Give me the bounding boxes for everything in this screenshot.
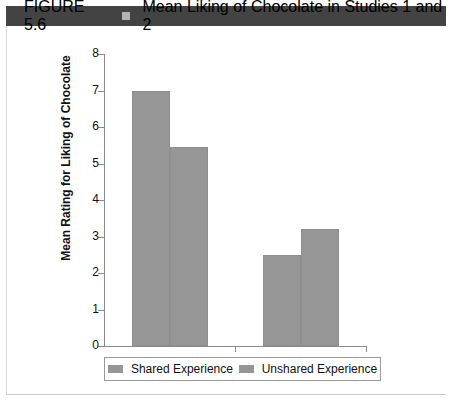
legend-item: Shared Experience [108,362,233,376]
figure-header: FIGURE 5.6 Mean Liking of Chocolate in S… [6,6,446,26]
legend-item: Unshared Experience [239,362,377,376]
bar-chart: Mean Rating for Liking of Chocolate 0123… [0,26,452,394]
square-glyph-icon [122,12,130,20]
legend-label: Unshared Experience [262,362,377,376]
bar [132,91,170,347]
caption-text [10,404,310,413]
y-axis-tick-label: 3 [92,229,99,243]
y-axis-tick-label: 1 [92,302,99,316]
y-axis-tick-label: 6 [92,119,99,133]
legend-label: Shared Experience [131,362,233,376]
y-axis-tick-label: 5 [92,156,99,170]
legend-swatch-icon [239,365,254,373]
y-axis-tick-label: 8 [92,46,99,60]
x-axis-tick [235,346,236,352]
y-axis-tick-label: 7 [92,83,99,97]
y-axis-line [104,54,105,346]
y-axis-tick-label: 0 [92,338,99,352]
chart-legend: Shared ExperienceUnshared Experience [104,357,381,381]
x-axis-tick [366,346,367,352]
plot-area: 012345678 Study 1Study 2 [104,54,366,346]
bar [301,229,339,346]
y-axis-tick-label: 4 [92,192,99,206]
y-axis-title: Mean Rating for Liking of Chocolate [59,33,73,283]
legend-swatch-icon [108,365,123,373]
panel-bottom-rule [6,394,446,395]
bar [170,147,208,346]
bar [263,255,301,346]
y-axis-tick-label: 2 [92,265,99,279]
